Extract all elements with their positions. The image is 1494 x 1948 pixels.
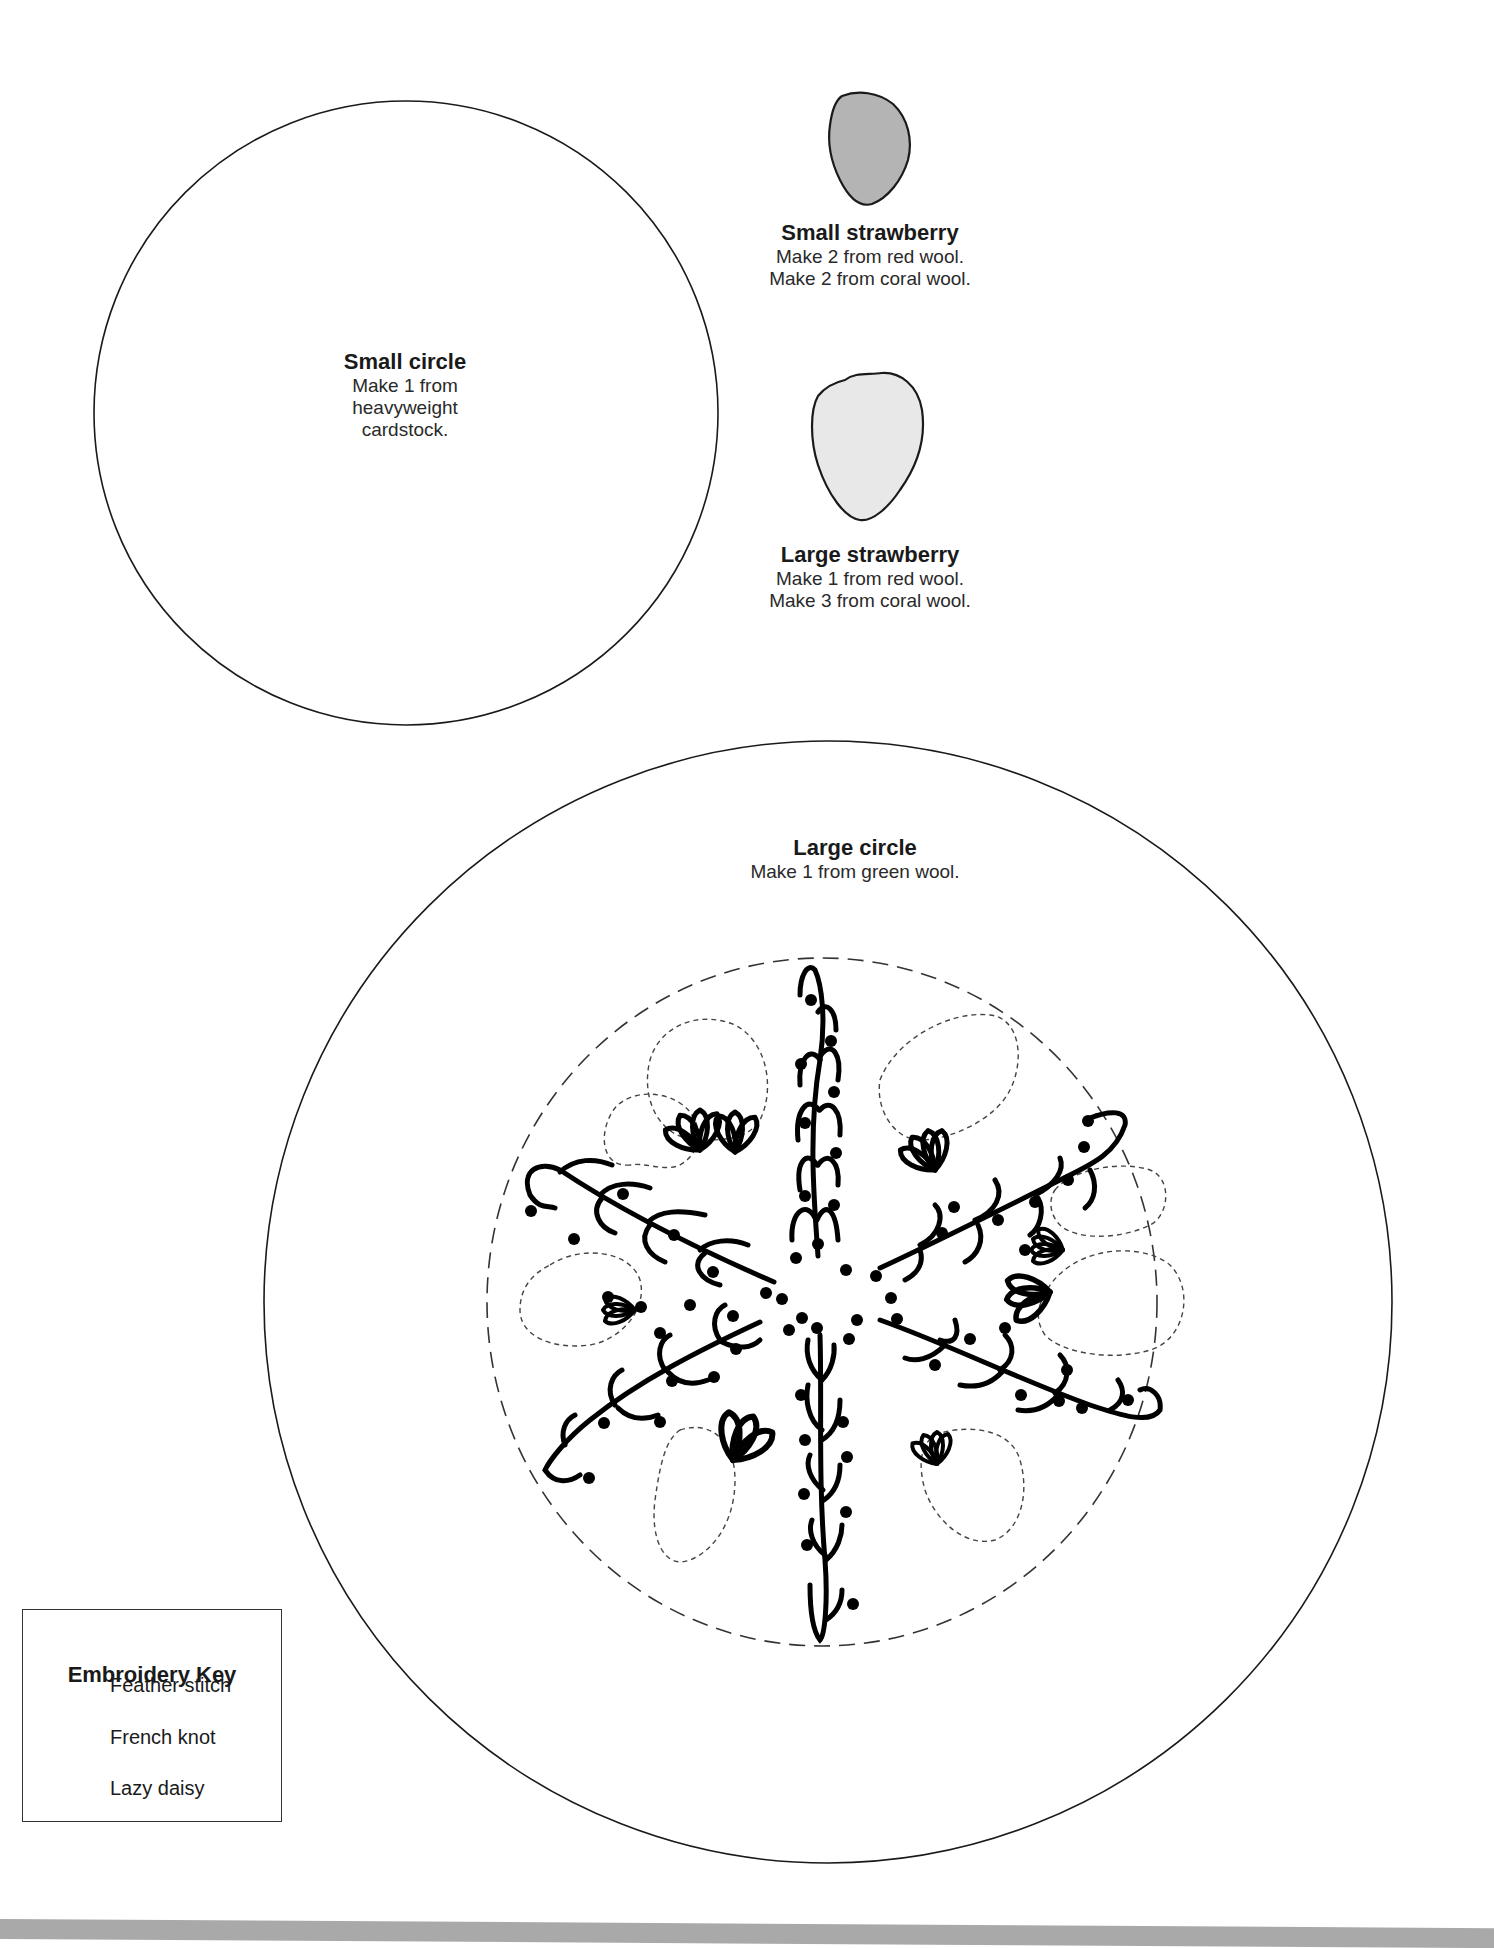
small-strawberry-instruction-2: Make 2 from coral wool. — [720, 268, 1020, 290]
small-circle-label: Small circle Make 1 from heavyweight car… — [305, 349, 505, 441]
key-item-french-knot: French knot — [110, 1726, 216, 1749]
small-strawberry-instruction-1: Make 2 from red wool. — [720, 246, 1020, 268]
large-circle-outline — [264, 741, 1392, 1863]
large-strawberry-shape — [812, 373, 923, 520]
small-strawberry-label: Small strawberry Make 2 from red wool. M… — [720, 220, 1020, 290]
key-item-lazy-daisy: Lazy daisy — [110, 1777, 205, 1800]
strawberry-placement-outlines — [520, 1014, 1184, 1561]
key-item-feather-stitch: Feather stitch — [110, 1674, 231, 1697]
small-strawberry-shape — [829, 93, 910, 205]
large-circle-instruction-1: Make 1 from green wool. — [690, 861, 1020, 883]
small-circle-instruction-1: Make 1 from — [305, 375, 505, 397]
small-strawberry-title: Small strawberry — [720, 220, 1020, 246]
large-strawberry-title: Large strawberry — [720, 542, 1020, 568]
small-circle-instruction-2: heavyweight — [305, 397, 505, 419]
large-strawberry-label: Large strawberry Make 1 from red wool. M… — [720, 542, 1020, 612]
large-strawberry-instruction-1: Make 1 from red wool. — [720, 568, 1020, 590]
large-circle-title: Large circle — [690, 835, 1020, 861]
large-strawberry-instruction-2: Make 3 from coral wool. — [720, 590, 1020, 612]
large-circle-label: Large circle Make 1 from green wool. — [690, 835, 1020, 883]
small-circle-instruction-3: cardstock. — [305, 419, 505, 441]
small-circle-title: Small circle — [305, 349, 505, 375]
